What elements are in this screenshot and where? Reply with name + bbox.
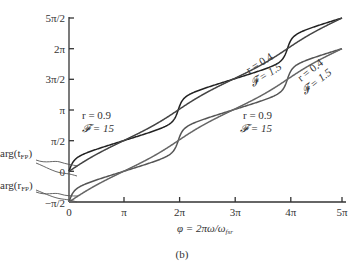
label-arg-r: arg(rFP) — [0, 179, 33, 193]
y-tick-0: 0 — [60, 166, 66, 178]
y-tick-pi: π — [59, 104, 65, 116]
annotations: r = 0.9 𝓕 = 15 r = 0.4 𝓕 = 1.5 r = 0.4 𝓕… — [0, 50, 334, 193]
x-tick-3pi: 3π — [230, 206, 242, 218]
x-tick-2pi: 2π — [174, 206, 186, 218]
curve-argtfp-r09 — [69, 18, 342, 171]
x-tick-4pi: 4π — [285, 206, 297, 218]
x-tick-0: 0 — [66, 206, 72, 218]
x-tick-labels: 0 π 2π 3π 4π 5π — [66, 206, 348, 218]
figure-caption: (b) — [176, 248, 189, 261]
y-tick-5pi-2: 5π/2 — [45, 12, 65, 24]
annotation-r09-upper: r = 0.9 — [82, 109, 112, 121]
x-tick-5pi: 5π — [336, 206, 348, 218]
phase-chart: 5π/2 2π 3π/2 π π/2 0 −π/2 0 π 2π 3π 4π 5… — [0, 0, 363, 270]
curve-argtfp-r04 — [69, 18, 342, 171]
annotation-F15-lower: 𝓕 = 15 — [240, 122, 272, 134]
y-tick-3pi-2: 3π/2 — [45, 73, 65, 85]
y-tick-pi-2: π/2 — [51, 135, 65, 147]
annotation-r09-lower: r = 0.9 — [243, 109, 273, 121]
annotation-F15-upper: 𝓕 = 15 — [82, 122, 114, 134]
x-axis-label: φ = 2πω/ωfsr — [177, 222, 233, 236]
label-arg-t: arg(tFP) — [0, 147, 32, 161]
y-tick-labels: 5π/2 2π 3π/2 π π/2 0 −π/2 — [45, 12, 66, 209]
x-tick-pi: π — [121, 206, 127, 218]
y-tick-2pi: 2π — [54, 43, 66, 55]
label-leaders — [36, 160, 78, 202]
